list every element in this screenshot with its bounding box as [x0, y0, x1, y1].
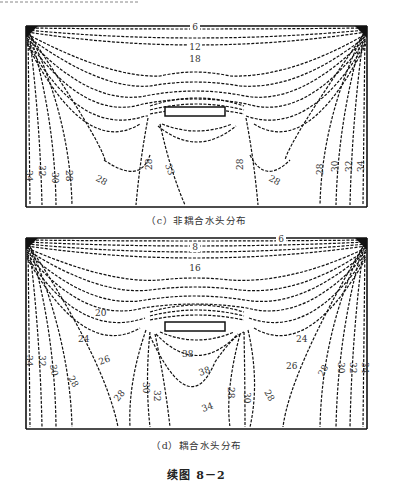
contour-label: 34 — [200, 400, 214, 413]
contour-label: 28 — [235, 158, 245, 170]
top-edge-fragment — [0, 0, 150, 5]
figure-c-caption: （c）非耦合水头分布 — [0, 213, 393, 227]
contour-label: 34 — [360, 362, 370, 374]
contour-label: 30 — [336, 362, 346, 374]
contour-label: 28 — [112, 388, 127, 403]
contour-label: 28 — [94, 173, 109, 188]
contour-label: 30 — [330, 160, 340, 172]
contour-label: 33 — [163, 162, 176, 176]
contour-label: 32 — [344, 161, 354, 172]
contour-label: 8 — [192, 242, 198, 252]
contour-label: 38 — [197, 364, 211, 377]
contour-label: 28 — [267, 173, 282, 188]
contour-label: 18 — [189, 54, 201, 64]
contour-label: 28 — [226, 387, 236, 399]
drain-plate — [165, 322, 225, 331]
contour-label: 30 — [50, 172, 60, 184]
contour-label: 32 — [152, 390, 162, 401]
contour-label: 28 — [262, 388, 277, 403]
contour-label: 24 — [78, 334, 90, 344]
contour-label: 30 — [141, 382, 151, 394]
contour-label: 20 — [95, 308, 107, 318]
contour-label: 16 — [189, 263, 201, 273]
contour-label: 34 — [24, 355, 34, 367]
figure-c-uncoupled-head: 6 12 18 34 32 30 28 28 28 33 28 28 28 30… — [0, 20, 393, 215]
contour-label: 30 — [242, 392, 252, 404]
contour-label: 24 — [296, 334, 308, 344]
contour-label: 6 — [192, 22, 198, 32]
contour-label: 26 — [97, 353, 111, 366]
contour-label: 28 — [66, 374, 81, 389]
contour-label: 38 — [182, 349, 194, 359]
contour-label: 28 — [64, 170, 74, 182]
contour-label: 32 — [348, 362, 358, 373]
contour-label: 26 — [286, 361, 298, 371]
drain-plate — [165, 107, 225, 116]
figure-title: 续图 8－2 — [0, 466, 393, 482]
contour-label: 34 — [356, 160, 366, 172]
contour-label: 28 — [144, 158, 154, 170]
contour-label: 12 — [189, 42, 200, 52]
contour-label: 6 — [278, 234, 284, 244]
contour-label: 34 — [24, 170, 34, 182]
contour-label: 32 — [37, 165, 47, 176]
figure-d-caption: （d）耦合水头分布 — [0, 438, 393, 452]
figure-d-coupled-head: 6 8 16 20 24 26 24 26 38 38 34 34 32 30 … — [0, 232, 393, 437]
contour-label: 28 — [315, 163, 325, 175]
contour-label: 30 — [48, 364, 60, 377]
contour-label: 28 — [316, 363, 331, 378]
contour-label: 32 — [37, 355, 47, 366]
